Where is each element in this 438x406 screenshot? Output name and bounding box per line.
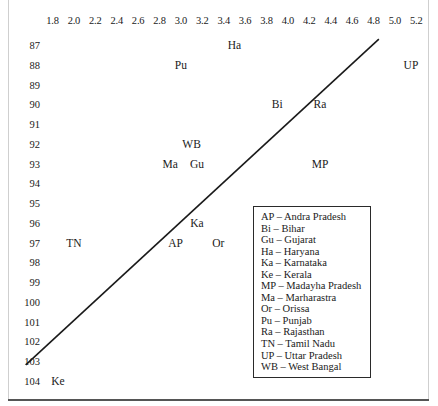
legend-entry: Gu – Gujarat <box>261 234 364 246</box>
legend-entry: Ka – Karnataka <box>261 257 364 269</box>
legend-box: AP – Andra PradeshBi – BiharGu – Gujarat… <box>253 206 371 378</box>
point-label-pu: Pu <box>175 59 187 71</box>
point-label-mp: MP <box>312 158 329 170</box>
scatter-chart-figure: 1.82.02.22.42.62.83.03.23.43.63.84.04.24… <box>0 0 438 406</box>
point-label-wb: WB <box>182 138 201 150</box>
legend-entry: MP – Madayha Pradesh <box>261 280 364 292</box>
legend-entry: Or – Orissa <box>261 303 364 315</box>
point-label-ap: AP <box>168 237 183 249</box>
point-label-bi: Bi <box>272 98 283 110</box>
legend-entry: Pu – Punjab <box>261 315 364 327</box>
legend-entry: Bi – Bihar <box>261 223 364 235</box>
legend-entry: TN – Tamil Nadu <box>261 338 364 350</box>
point-label-up: UP <box>404 59 419 71</box>
point-label-gu: Gu <box>190 158 204 170</box>
point-label-ha: Ha <box>228 39 241 51</box>
point-label-ka: Ka <box>190 217 203 229</box>
legend-entry: WB – West Bangal <box>261 361 364 373</box>
legend-entry: Ra – Rajasthan <box>261 326 364 338</box>
point-label-ra: Ra <box>314 98 327 110</box>
point-label-ma: Ma <box>163 158 178 170</box>
legend-entry: AP – Andra Pradesh <box>261 211 364 223</box>
data-point-labels: HaPuUPBiRaWBMaGuMPKaTNAPOrKe <box>0 0 438 406</box>
point-label-or: Or <box>212 237 224 249</box>
point-label-tn: TN <box>66 237 81 249</box>
legend-entry: UP – Uttar Pradesh <box>261 350 364 362</box>
legend-entry: Ha – Haryana <box>261 246 364 258</box>
legend-entry: Ma – Marharastra <box>261 292 364 304</box>
legend-entry: Ke – Kerala <box>261 269 364 281</box>
point-label-ke: Ke <box>51 375 64 387</box>
